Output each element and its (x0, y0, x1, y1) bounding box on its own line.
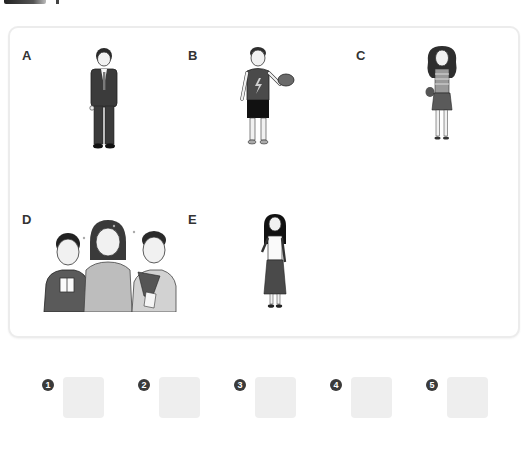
mother-with-sons-illustration (38, 220, 180, 312)
answer-box-4[interactable] (351, 377, 392, 418)
answer-box-3[interactable] (255, 377, 296, 418)
option-label: C (356, 48, 365, 63)
answer-box-5[interactable] (447, 377, 488, 418)
number-badge-1: 1 (42, 379, 54, 391)
answer-row: 1 2 3 4 5 (0, 376, 521, 420)
girl-with-curly-hair-illustration (424, 44, 460, 144)
number-badge-3: 3 (234, 379, 246, 391)
answer-item-3: 3 (234, 376, 298, 420)
boy-with-cap-illustration (238, 44, 300, 148)
number-badge-2: 2 (138, 379, 150, 391)
option-label: D (22, 212, 31, 227)
option-label: A (22, 48, 31, 63)
answer-box-1[interactable] (63, 377, 104, 418)
number-badge-4: 4 (330, 379, 342, 391)
option-label: E (188, 212, 197, 227)
option-e: E (180, 198, 350, 336)
answer-item-5: 5 (426, 376, 490, 420)
answer-box-2[interactable] (159, 377, 200, 418)
options-panel: A B (8, 26, 520, 338)
header-decor-tick (56, 0, 59, 4)
option-b: B (180, 28, 350, 178)
header-decor-bar (4, 0, 46, 4)
man-in-suit-illustration (84, 46, 124, 150)
option-a: A (10, 28, 180, 178)
option-d: D (10, 198, 180, 336)
girl-in-long-skirt-illustration (258, 214, 292, 312)
answer-item-2: 2 (138, 376, 202, 420)
number-badge-5: 5 (426, 379, 438, 391)
answer-item-1: 1 (42, 376, 106, 420)
answer-item-4: 4 (330, 376, 394, 420)
option-c: C (350, 28, 518, 178)
option-label: B (188, 48, 197, 63)
